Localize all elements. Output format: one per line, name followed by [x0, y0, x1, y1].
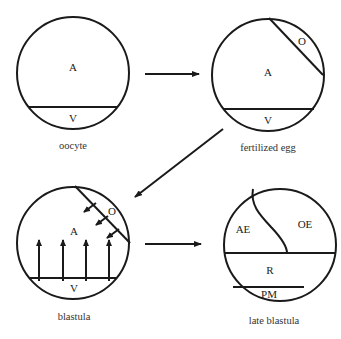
late-blastula-caption: late blastula [249, 315, 300, 326]
embryo-development-diagram: A V oocyte O A V fertilized egg O A V bl… [0, 0, 341, 339]
vegetal-label: V [70, 282, 78, 294]
signal-arrow-icon [84, 203, 96, 212]
signal-arrow-icon [96, 216, 108, 225]
arrow-diagonal-icon [135, 129, 223, 197]
animal-label: A [70, 225, 78, 237]
pm-label: PM [261, 288, 277, 300]
blastula-caption: blastula [58, 311, 91, 322]
fertilized-egg-stage: O A V fertilized egg [212, 18, 324, 153]
ae-label: AE [236, 223, 251, 235]
o-label: O [298, 35, 306, 47]
oe-label: OE [298, 218, 313, 230]
r-label: R [266, 264, 274, 276]
vegetal-label: V [69, 112, 77, 124]
fertilized-egg-caption: fertilized egg [240, 142, 296, 153]
late-blastula-circle [224, 189, 336, 301]
o-label: O [108, 205, 116, 217]
animal-label: A [69, 61, 77, 73]
vegetal-label: V [264, 114, 272, 126]
ae-oe-boundary [252, 189, 287, 253]
late-blastula-stage: AE OE R PM late blastula [224, 189, 336, 326]
blastula-stage: O A V blastula [17, 186, 130, 322]
oocyte-stage: A V oocyte [17, 17, 129, 151]
oocyte-caption: oocyte [59, 140, 87, 151]
animal-label: A [264, 66, 272, 78]
signal-arrow-icon [107, 229, 119, 238]
